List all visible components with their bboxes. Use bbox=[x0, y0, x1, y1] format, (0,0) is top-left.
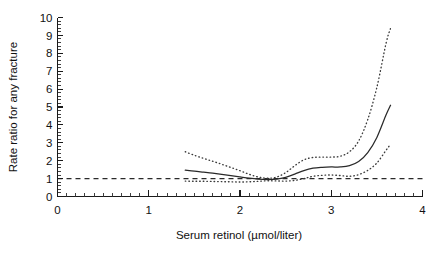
chart-background bbox=[0, 0, 441, 254]
rate-ratio-vs-serum-retinol-chart: 01234567891001234 Rate ratio for any fra… bbox=[0, 0, 441, 254]
y-axis-tick-label: 2 bbox=[46, 155, 52, 167]
y-axis-tick-label: 1 bbox=[46, 173, 52, 185]
y-axis-tick-label: 6 bbox=[46, 83, 52, 95]
y-axis-tick-label: 3 bbox=[46, 137, 52, 149]
y-axis-tick-label: 9 bbox=[46, 30, 52, 42]
x-axis-tick-label: 0 bbox=[54, 204, 60, 216]
x-axis-tick-label: 4 bbox=[419, 204, 426, 216]
y-axis-tick-label: 5 bbox=[46, 101, 52, 113]
y-axis-tick-label: 7 bbox=[46, 65, 52, 77]
y-axis-tick-label: 10 bbox=[40, 12, 53, 24]
y-axis-title: Rate ratio for any fracture bbox=[7, 42, 19, 172]
x-axis-tick-label: 1 bbox=[146, 204, 152, 216]
y-axis-tick-label: 0 bbox=[46, 191, 52, 203]
x-axis-tick-label: 2 bbox=[237, 204, 243, 216]
y-axis-tick-label: 8 bbox=[46, 47, 52, 59]
x-axis-title: Serum retinol (µmol/liter) bbox=[176, 229, 302, 241]
y-axis-tick-label: 4 bbox=[46, 119, 53, 131]
x-axis-tick-label: 3 bbox=[328, 204, 334, 216]
figure-container: 01234567891001234 Rate ratio for any fra… bbox=[0, 0, 441, 254]
